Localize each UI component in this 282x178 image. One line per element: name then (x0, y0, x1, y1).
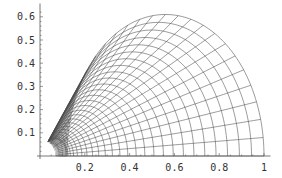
polar-grid-plot: 0.20.40.60.81 0.10.20.30.40.50.6 (0, 0, 282, 178)
x-tick-label: 0.8 (210, 162, 228, 173)
radial-curve (54, 25, 203, 145)
radial-curve (59, 119, 261, 152)
y-tick-label: 0.1 (17, 127, 35, 138)
radial-curve (50, 19, 140, 142)
x-tick-label: 0.6 (165, 162, 183, 173)
radial-curve (50, 25, 127, 140)
x-tick-label: 1 (261, 162, 267, 173)
x-tick-label: 0.4 (121, 162, 139, 173)
y-tick-label: 0.5 (17, 35, 35, 46)
y-tick-label: 0.2 (17, 104, 35, 115)
radial-curve (49, 33, 116, 141)
y-tick-label: 0.3 (17, 81, 35, 92)
y-axis-ticks: 0.10.20.30.40.50.6 (17, 11, 43, 151)
radial-curve (57, 70, 243, 149)
y-tick-label: 0.4 (17, 58, 35, 69)
grid-curves (48, 14, 264, 156)
x-tick-label: 0.2 (76, 162, 94, 173)
radial-curve (51, 14, 166, 143)
y-tick-label: 0.6 (17, 11, 35, 22)
